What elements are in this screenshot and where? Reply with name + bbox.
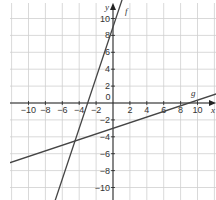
x-tick-label: −8 (40, 105, 50, 115)
y-tick-label: −2 (100, 115, 110, 125)
tick-labels: −10−8−6−4−20246810108642−2−4−6−8−10yx (21, 2, 215, 193)
y-tick-label: 2 (105, 81, 110, 91)
y-tick-label: 4 (105, 64, 110, 74)
x-tick-label: −2 (91, 105, 101, 115)
coordinate-graph: −10−8−6−4−20246810108642−2−4−6−8−10yx fg (0, 0, 216, 200)
x-tick-label: 6 (161, 105, 166, 115)
y-tick-label: −6 (100, 149, 110, 159)
y-tick-label: 10 (100, 14, 110, 24)
x-axis-label: x (210, 105, 215, 115)
origin-label: 0 (105, 92, 110, 102)
x-tick-label: −6 (57, 105, 67, 115)
y-tick-label: −8 (100, 166, 110, 176)
y-axis-arrow-icon (110, 3, 116, 10)
x-tick-label: −10 (21, 105, 36, 115)
y-axis-label: y (104, 2, 109, 12)
line-f-label: f (125, 6, 129, 16)
x-tick-label: 10 (192, 105, 202, 115)
y-tick-label: −4 (100, 132, 110, 142)
line-g-label: g (191, 88, 196, 98)
x-tick-label: 2 (127, 105, 132, 115)
x-tick-label: 4 (144, 105, 149, 115)
y-tick-label: −10 (95, 183, 110, 193)
x-tick-label: −4 (74, 105, 84, 115)
